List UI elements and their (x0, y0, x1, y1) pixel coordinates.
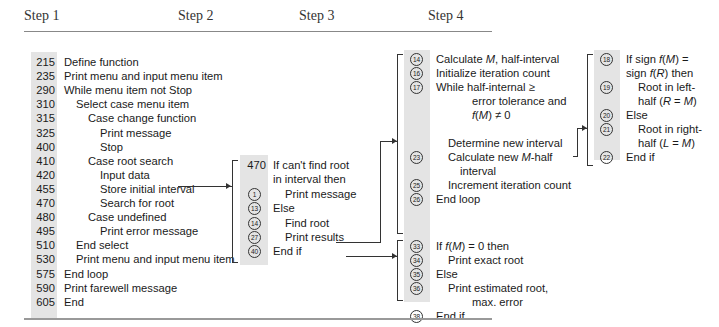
code-line: Input data (100, 168, 150, 182)
code-line: Define function (64, 55, 139, 69)
code-line: Print message (100, 126, 172, 140)
code-line: Increment iteration count (448, 178, 571, 192)
step-circle-marker: 21 (600, 123, 613, 136)
connector-determine-v (577, 128, 578, 157)
step-circle-marker: 34 (410, 254, 423, 267)
step3-header: Step 3 (299, 8, 334, 24)
code-line: Print farewell message (64, 281, 177, 295)
code-line: Print menu and input menu item (64, 69, 223, 83)
line-number: 235 (31, 69, 55, 83)
step-circle-marker: 23 (410, 151, 423, 164)
line-number: 470 (242, 158, 266, 172)
line-number: 575 (31, 267, 55, 281)
step3b-bracket-bottom (397, 300, 403, 301)
connector-findroot (336, 242, 381, 243)
step-circle-marker: 14 (410, 53, 423, 66)
step-circle-marker: 20 (600, 109, 613, 122)
code-line: Stop (100, 140, 123, 154)
code-line: Calculate M, half-interval (436, 52, 559, 66)
code-line: Print error message (100, 224, 198, 238)
code-line: Select case menu item (76, 97, 189, 111)
code-line: half (L = M) (638, 136, 695, 150)
code-line: error tolerance and (472, 94, 567, 108)
step2-header: Step 2 (178, 8, 213, 24)
line-number: 510 (31, 238, 55, 252)
step-circle-marker: 27 (248, 231, 261, 244)
line-number: 530 (31, 252, 55, 266)
step-circle-marker: 1 (248, 188, 261, 201)
arrow-icon (226, 183, 231, 189)
code-line: Print exact root (448, 253, 523, 267)
line-number: 495 (31, 224, 55, 238)
line-number: 605 (31, 295, 55, 309)
code-line: half (R = M) (638, 94, 697, 108)
code-line: Case root search (88, 154, 173, 168)
step3b-bracket-top (397, 240, 403, 241)
code-line: max. error (472, 295, 523, 309)
step4-gutter (594, 50, 620, 160)
code-line: Search for root (100, 196, 174, 210)
line-number: 400 (31, 140, 55, 154)
step2-bracket-top (232, 160, 238, 161)
code-line: Print menu and input menu item (76, 252, 235, 266)
step4-bracket-bottom (587, 165, 593, 166)
step3b-bracket (397, 240, 398, 300)
connector-printresults (346, 256, 397, 257)
line-number: 480 (31, 210, 55, 224)
code-line: Else (626, 108, 648, 122)
code-line: While menu item not Stop (64, 83, 192, 97)
step-circle-marker: 36 (410, 282, 423, 295)
step-circle-marker: 33 (410, 240, 423, 253)
code-line: End if (436, 309, 465, 323)
line-number: 590 (31, 281, 55, 295)
code-line: Case undefined (88, 210, 166, 224)
code-line: Initialize iteration count (436, 66, 550, 80)
code-line: in interval then (273, 172, 346, 186)
code-line: End loop (436, 192, 480, 206)
step4-bracket-top (587, 54, 593, 55)
step-circle-marker: 25 (410, 179, 423, 192)
code-line: If sign f(M) = (626, 52, 689, 66)
code-line: Print message (285, 187, 357, 201)
step2-bracket (232, 160, 233, 262)
line-number: 290 (31, 83, 55, 97)
step4-bracket (587, 54, 588, 165)
line-number: 410 (31, 154, 55, 168)
code-line: End if (273, 244, 302, 258)
line-number: 325 (31, 126, 55, 140)
step-circle-marker: 38 (410, 310, 423, 323)
line-number: 420 (31, 168, 55, 182)
line-number: 310 (31, 97, 55, 111)
step-circle-marker: 16 (410, 67, 423, 80)
code-line: If can't find root (273, 158, 349, 172)
step3a-bracket (397, 54, 398, 233)
code-line: End (64, 295, 84, 309)
bottom-rule (24, 318, 492, 320)
top-rule (24, 31, 492, 32)
step3a-bracket-top (397, 54, 403, 55)
step-circle-marker: 26 (410, 193, 423, 206)
code-line: Else (273, 201, 295, 215)
code-line: interval (460, 164, 496, 178)
code-line: sign f(R) then (626, 66, 693, 80)
code-line: Root in right- (638, 122, 702, 136)
step4-header: Step 4 (428, 8, 463, 24)
code-line: Calculate new M-half (448, 150, 552, 164)
code-line: While half-internal ≥ (436, 80, 535, 94)
step-circle-marker: 18 (600, 53, 613, 66)
code-line: Case change function (88, 111, 196, 125)
step-circle-marker: 17 (410, 81, 423, 94)
connector-findroot-v (380, 141, 381, 243)
code-line: Root in left- (638, 80, 695, 94)
code-line: Store initial interval (100, 182, 195, 196)
step-circle-marker: 35 (410, 268, 423, 281)
code-line: End if (626, 150, 655, 164)
line-number: 315 (31, 111, 55, 125)
line-number: 215 (31, 55, 55, 69)
code-line: Find root (285, 216, 329, 230)
step-circle-marker: 19 (600, 81, 613, 94)
code-line: End select (76, 238, 128, 252)
code-line: Print estimated root, (448, 281, 548, 295)
code-line: Determine new interval (448, 136, 562, 150)
code-line: Else (436, 267, 458, 281)
